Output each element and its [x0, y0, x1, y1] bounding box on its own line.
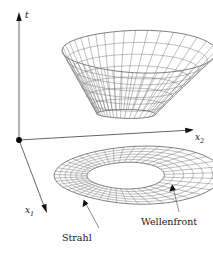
mesh-segment: [82, 160, 174, 192]
wavefront-ray-diagram: t x2 x1 Strahl Wellenfront: [0, 0, 213, 254]
mesh-segment: [87, 154, 102, 166]
x1-axis-label: x1: [25, 206, 34, 217]
mesh-segment: [159, 182, 211, 189]
x1-axis-line: [19, 140, 44, 206]
x2-axis-label: x2: [195, 133, 204, 144]
wellenfront-leader-line: [174, 189, 180, 212]
x1-axis-label-subscript: 1: [30, 210, 34, 218]
mesh-segment: [119, 31, 124, 110]
t-axis-arrowhead: [16, 12, 21, 21]
mesh-segment: [151, 41, 207, 112]
mesh-segment: [155, 185, 201, 195]
mesh-segment: [63, 47, 97, 113]
mesh-segment: [154, 60, 212, 116]
light-cone-funnel: [62, 30, 213, 118]
mesh-segment: [138, 32, 174, 110]
origin-point: [16, 137, 22, 143]
x2-axis-label-subscript: 2: [200, 137, 204, 145]
t-axis-label: t: [25, 11, 29, 20]
x1-axis-arrowhead: [41, 204, 46, 213]
mesh-segment: [164, 173, 213, 175]
mesh-segment: [163, 167, 213, 172]
wellenfront-label: Wellenfront: [141, 217, 197, 227]
mesh-segment: [95, 152, 106, 165]
wavefront-ring: [54, 146, 213, 204]
mesh-segment: [92, 186, 105, 198]
x2-axis-line: [19, 130, 187, 140]
x2-axis-arrowhead: [185, 128, 194, 133]
mesh-segment: [99, 187, 108, 200]
mesh-segment: [87, 162, 164, 189]
strahl-leader-line: [86, 204, 99, 228]
mesh-segment: [121, 72, 122, 118]
mesh-segment: [164, 177, 213, 178]
strahl-label: Strahl: [62, 233, 92, 243]
mesh-segment: [144, 70, 184, 118]
